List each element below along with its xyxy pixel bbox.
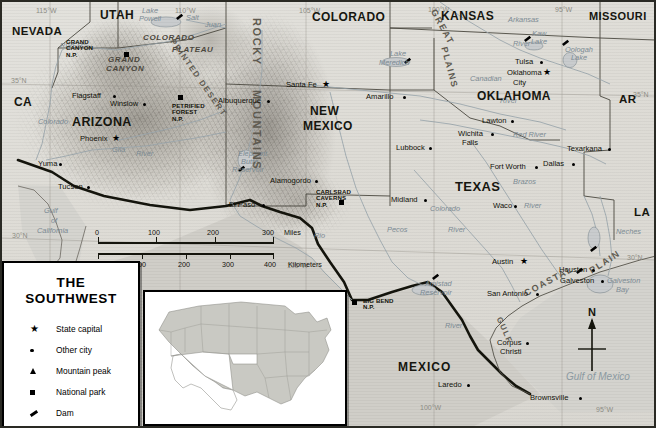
coordinate-label-10: 100°W	[420, 404, 441, 411]
scale-tick	[230, 253, 231, 259]
city-label-yuma: Yuma	[38, 160, 57, 168]
water-label-river: River	[513, 40, 530, 47]
dot-icon	[424, 199, 427, 202]
scale-tick	[273, 237, 274, 243]
legend-items-list: ★State capitalOther cityMountain peakNat…	[4, 319, 138, 424]
scale-tick	[98, 253, 99, 259]
city-label-waco: Waco	[493, 202, 512, 210]
dot-icon	[514, 205, 517, 208]
water-label-amistad: Amistad	[425, 280, 452, 287]
state-label-kansas: KANSAS	[441, 10, 494, 22]
park-label-carlsbad: CARLSBADCAVERNSN.P.	[316, 189, 351, 208]
city-label-laredo: Laredo	[438, 381, 462, 389]
physiographic-label-rocky: ROCKY	[251, 18, 262, 66]
state-label-new: NEW	[310, 105, 339, 117]
state-label-texas: TEXAS	[455, 180, 500, 193]
star-icon: ★	[520, 257, 528, 266]
legend-row-state-capital: ★State capital	[26, 319, 138, 340]
water-label-colorado: Colorado	[38, 118, 68, 125]
legend-row-other-city: Other city	[26, 340, 138, 361]
scale-km-unit: Kilometers	[288, 260, 322, 269]
scale-miles-tick-100: 100	[148, 228, 160, 237]
water-label-meredich: Meredich	[379, 59, 409, 66]
water-label-river: River	[136, 150, 153, 157]
state-label-arizona: ARIZONA	[72, 116, 132, 129]
city-label-lawton: Lawton	[482, 117, 507, 125]
city-label-albuquerque: Albuquerque	[218, 97, 261, 105]
dot-icon	[315, 180, 318, 183]
water-label-reservoir: Reservoir	[420, 289, 452, 296]
scale-tick	[142, 253, 143, 259]
city-label-wichita: Wichita	[458, 130, 483, 138]
state-label-la: LA	[634, 207, 650, 219]
legend-title-line1: THE	[4, 275, 138, 291]
dot-icon	[601, 280, 604, 283]
city-label-tulsa: Tulsa	[515, 58, 533, 66]
scale-km-tick-200: 200	[178, 260, 190, 269]
legend-symbol-wrap	[26, 368, 56, 374]
inset-locator-map	[143, 290, 347, 426]
legend-row-mountain-peak: Mountain peak	[26, 361, 138, 382]
scale-tick	[273, 253, 274, 259]
city-label-alamogordo: Alamogordo	[270, 177, 311, 185]
scale-bar-miles-line	[98, 242, 274, 244]
city-label-austin: Austin	[492, 258, 513, 266]
dot-icon	[59, 163, 62, 166]
dam-icon	[30, 410, 38, 417]
city-label-san-antonio: San Antonio	[487, 290, 528, 298]
compass-north-label: N	[588, 306, 596, 318]
legend-title: THE SOUTHWEST	[4, 275, 138, 308]
water-label-bay: Bay	[616, 286, 629, 293]
city-label-winslow: Winslow	[110, 100, 138, 108]
legend-label: Mountain peak	[56, 366, 111, 376]
dot-icon	[403, 96, 406, 99]
water-label-of: of	[51, 217, 57, 224]
legend-row-national-park: National park	[26, 382, 138, 403]
water-label-galveston: Galveston	[607, 277, 640, 284]
city-label-tucson: Tucson	[58, 183, 83, 191]
coordinate-label-4: 95°W	[555, 6, 572, 13]
city-label-phoenix: Phoenix	[80, 135, 107, 143]
water-label-pecos: Pecos	[387, 226, 408, 233]
city-label-galveston: Galveston	[560, 277, 594, 285]
star-icon: ★	[112, 134, 120, 143]
scale-miles-tick-0: 0	[95, 228, 99, 237]
water-label-powell: Powell	[139, 15, 161, 22]
square-icon	[124, 52, 129, 57]
coordinate-label-0: 115°W	[36, 7, 57, 14]
compass-rose: N	[575, 305, 609, 377]
water-label-california: California	[37, 227, 68, 234]
star-icon: ★	[322, 80, 330, 89]
scale-tick	[98, 237, 99, 243]
star-icon: ★	[30, 324, 39, 334]
dot-icon	[608, 148, 611, 151]
water-label-canadian: Canadian	[470, 75, 502, 82]
legend-label: National park	[56, 387, 105, 397]
park-label-line: N.P.	[66, 52, 93, 58]
state-label-ca: CA	[14, 96, 32, 108]
legend-title-line2: SOUTHWEST	[4, 291, 138, 307]
dot-icon	[572, 163, 575, 166]
dot-icon	[491, 133, 494, 136]
map-legend: THE SOUTHWEST ★State capitalOther cityMo…	[2, 261, 140, 428]
southwest-map: 115°W110°W105°W100°W95°W35°N35°N30°N30°N…	[0, 0, 656, 428]
water-label-river: River	[445, 322, 462, 329]
star-icon: ★	[543, 68, 551, 77]
dot-icon	[30, 349, 34, 353]
state-label-nevada: NEVADA	[12, 26, 62, 38]
canyon-label-colorado: COLORADO	[143, 34, 194, 42]
water-label-gulf: Gulf	[44, 207, 58, 214]
water-label-brazos: Brazos	[513, 178, 536, 185]
legend-label: Other city	[56, 345, 92, 355]
dot-icon	[540, 61, 543, 64]
city-label-midland: Midland	[391, 196, 418, 204]
scale-tick	[156, 237, 157, 243]
dot-icon	[511, 120, 514, 123]
scale-km-tick-400: 400	[264, 260, 276, 269]
dot-icon	[526, 342, 529, 345]
city-label-amarillo: Amarillo	[366, 93, 393, 101]
city-label-fort-worth: Fort Worth	[490, 163, 526, 171]
water-label-lake: Lake	[531, 38, 547, 45]
state-label-colorado: COLORADO	[312, 11, 385, 23]
water-label-salt: Salt	[186, 14, 199, 21]
